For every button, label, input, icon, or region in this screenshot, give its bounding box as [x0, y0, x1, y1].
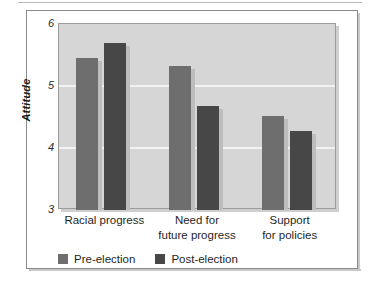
bar-pre-election-0[interactable] [76, 58, 98, 210]
figure: 6543 Attitude Racial progressNeed forfut… [0, 0, 373, 285]
y-tick-label-3: 3 [14, 203, 54, 215]
bar-shadow [219, 109, 223, 210]
plot-area [58, 23, 336, 209]
plot-shadow-right [336, 26, 339, 212]
x-axis-label-1: Need forfuture progress [151, 213, 244, 243]
legend-label: Post-election [171, 253, 237, 265]
x-axis-label-0: Racial progress [58, 213, 151, 228]
bar-chart: 6543 Attitude Racial progressNeed forfut… [0, 0, 373, 285]
y-axis-label: Attitude [20, 60, 32, 140]
x-axis-labels: Racial progressNeed forfuture progressSu… [58, 213, 336, 249]
bar-pre-election-1[interactable] [169, 66, 191, 210]
bar-post-election-0[interactable] [104, 43, 126, 210]
bar-post-election-1[interactable] [197, 106, 219, 210]
bar-shadow [191, 69, 195, 210]
legend-item-pre-election[interactable]: Pre-election [58, 253, 135, 265]
bar-post-election-2[interactable] [290, 131, 312, 210]
bar-shadow [312, 134, 316, 210]
bar-pre-election-2[interactable] [262, 116, 284, 210]
x-axis-label-2: Supportfor policies [243, 213, 336, 243]
legend-swatch-icon [155, 254, 165, 264]
bar-shadow [284, 119, 288, 210]
bar-shadow [126, 46, 130, 210]
chart-legend: Pre-electionPost-election [58, 250, 298, 268]
bar-shadow [98, 61, 102, 210]
legend-label: Pre-election [74, 253, 135, 265]
legend-item-post-election[interactable]: Post-election [155, 253, 237, 265]
legend-swatch-icon [58, 254, 68, 264]
y-tick-label-4: 4 [14, 141, 54, 153]
y-tick-label-6: 6 [14, 17, 54, 29]
